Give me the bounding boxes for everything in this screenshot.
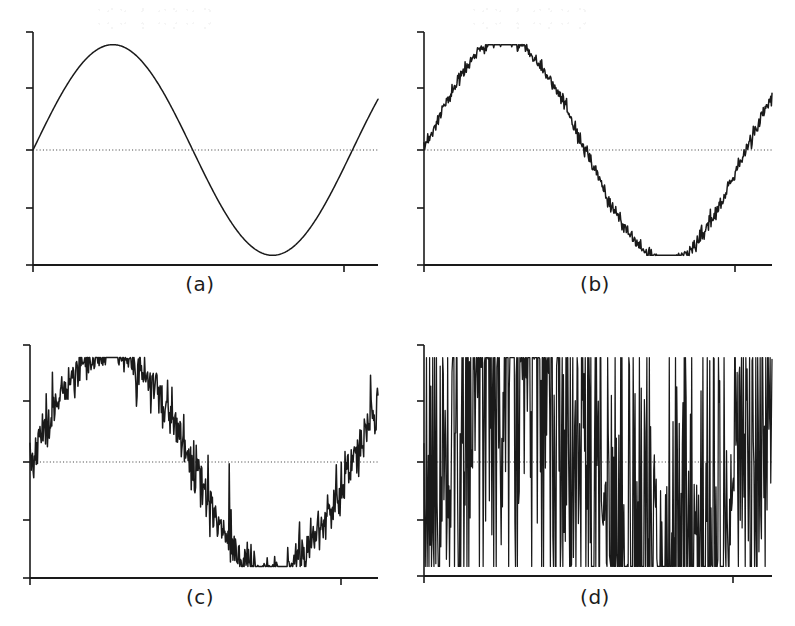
panel-a: (a) — [0, 0, 400, 313]
figure-panel-grid: (a) (b) (c) (d) — [0, 0, 795, 626]
panel-caption-a: (a) — [0, 272, 400, 296]
panel-caption-c: (c) — [0, 585, 400, 609]
waveform-trace — [424, 45, 772, 256]
panel-b: (b) — [395, 0, 795, 313]
panel-caption-b: (b) — [395, 272, 795, 296]
panel-d: (d) — [395, 313, 795, 626]
panel-caption-d: (d) — [395, 585, 795, 609]
panel-c: (c) — [0, 313, 400, 626]
plot-b — [395, 0, 795, 290]
waveform-trace — [30, 358, 378, 567]
waveform-trace — [424, 358, 772, 567]
plot-c — [0, 313, 400, 603]
plot-d — [395, 313, 795, 603]
plot-a — [0, 0, 400, 290]
